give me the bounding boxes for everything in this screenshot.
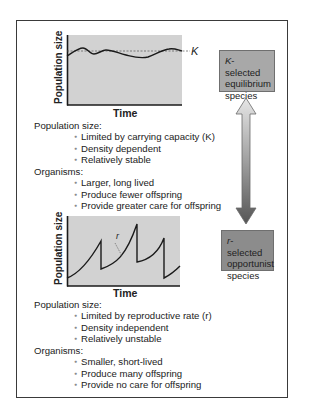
- list-item: Relatively unstable: [74, 333, 212, 345]
- list-item: Density independent: [74, 322, 212, 334]
- k-chart-y-axis-label: Population size: [53, 31, 64, 104]
- list-item: Limited by reproductive rate (r): [74, 310, 212, 322]
- list-item: Larger, long lived: [74, 177, 221, 189]
- k-organisms-title: Organisms:: [34, 166, 83, 177]
- r-chart-plot: [66, 214, 196, 294]
- r-curve-label: r: [116, 231, 119, 241]
- r-chart-y-axis-label: Population size: [53, 212, 64, 285]
- r-population-size-list: Limited by reproductive rate (r) Density…: [74, 310, 212, 345]
- r-chart-x-axis-label: Time: [113, 287, 137, 299]
- k-population-size-title: Population size:: [34, 120, 102, 131]
- list-item: Density dependent: [74, 143, 215, 155]
- list-item: Smaller, short-lived: [74, 356, 201, 368]
- k-chart-x-axis-label: Time: [113, 107, 137, 119]
- r-organisms-title: Organisms:: [34, 345, 83, 356]
- list-item: Provide greater care for offspring: [74, 200, 221, 212]
- k-line-label: K: [191, 45, 198, 57]
- list-item: Relatively stable: [74, 154, 215, 166]
- k-chart-plot: [66, 33, 206, 113]
- list-item: Produce many offspring: [74, 368, 201, 380]
- r-organisms-list: Smaller, short-lived Produce many offspr…: [74, 356, 201, 391]
- list-item: Limited by carrying capacity (K): [74, 131, 215, 143]
- k-organisms-list: Larger, long lived Produce fewer offspri…: [74, 177, 221, 212]
- double-arrow-icon: [232, 96, 262, 228]
- k-selected-species-box: K-selected equilibrium species: [219, 50, 275, 92]
- r-population-size-title: Population size:: [34, 299, 102, 310]
- list-item: Provide no care for offspring: [74, 379, 201, 391]
- k-population-size-list: Limited by carrying capacity (K) Density…: [74, 131, 215, 166]
- list-item: Produce fewer offspring: [74, 189, 221, 201]
- r-selected-species-box: r-selected opportunist species: [221, 230, 274, 271]
